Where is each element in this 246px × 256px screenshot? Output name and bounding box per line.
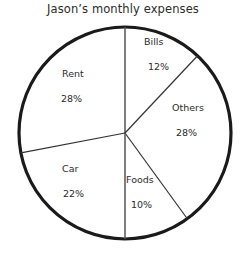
pie-chart [0,0,246,256]
slice-label-car: Car 22% [62,163,84,200]
slice-value-bills: 12% [148,61,169,73]
slice-label-rent: Rent 28% [62,68,84,105]
slice-value-others: 28% [176,127,204,139]
slice-name-rent: Rent [62,68,84,80]
slice-name-bills: Bills [144,36,169,48]
slice-label-foods: Foods 10% [126,174,154,211]
slice-value-rent: 28% [61,93,84,105]
slice-name-others: Others [172,102,204,114]
slice-label-others: Others 28% [172,102,204,139]
slice-label-bills: Bills 12% [144,36,169,73]
slice-value-foods: 10% [131,199,154,211]
slice-value-car: 22% [63,188,84,200]
slice-name-car: Car [62,163,84,175]
slice-name-foods: Foods [126,174,154,186]
